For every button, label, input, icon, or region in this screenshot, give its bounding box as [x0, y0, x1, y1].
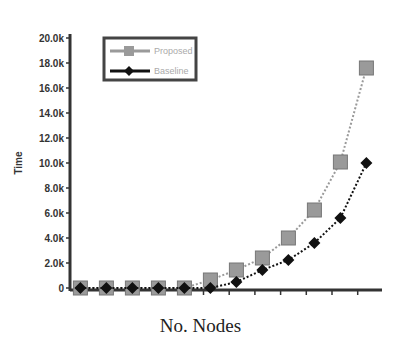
- marker-diamond: [308, 237, 320, 249]
- marker-diamond: [334, 212, 346, 224]
- legend-label: Proposed: [154, 46, 193, 56]
- legend-marker-square: [124, 46, 134, 56]
- y-tick-label: 4.0k: [45, 233, 65, 244]
- marker-square: [229, 263, 243, 277]
- y-tick-label: 20.0k: [39, 33, 64, 44]
- y-tick-label: 0: [58, 283, 64, 294]
- marker-square: [307, 203, 321, 217]
- y-tick-label: 2.0k: [45, 258, 65, 269]
- y-axis-title: Time: [13, 151, 24, 175]
- y-tick-label: 10.0k: [39, 158, 64, 169]
- series-line-1: [80, 163, 366, 288]
- marker-square: [359, 61, 373, 75]
- legend-label: Baseline: [154, 66, 189, 76]
- y-tick-label: 8.0k: [45, 183, 65, 194]
- y-tick-label: 6.0k: [45, 208, 65, 219]
- x-axis-title: No. Nodes: [0, 315, 401, 337]
- marker-square: [281, 231, 295, 245]
- marker-diamond: [256, 264, 268, 276]
- marker-diamond: [282, 254, 294, 266]
- marker-square: [333, 155, 347, 169]
- y-tick-label: 12.0k: [39, 133, 64, 144]
- marker-square: [255, 251, 269, 265]
- marker-diamond: [360, 157, 372, 169]
- series-line-0: [80, 68, 366, 288]
- y-tick-label: 18.0k: [39, 58, 64, 69]
- y-tick-label: 16.0k: [39, 83, 64, 94]
- line-chart: 02.0k4.0k6.0k8.0k10.0k12.0k14.0k16.0k18.…: [0, 0, 401, 362]
- y-tick-label: 14.0k: [39, 108, 64, 119]
- marker-diamond: [230, 276, 242, 288]
